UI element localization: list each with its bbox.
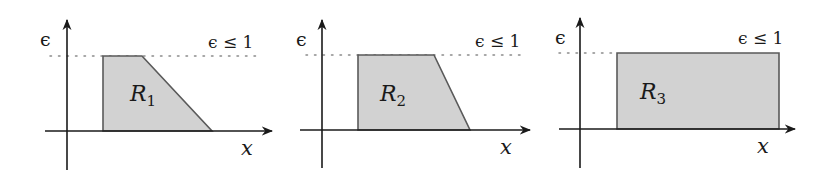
region-r1-shape bbox=[103, 56, 212, 131]
region-diagram: ϵ ϵ ≤ 1 x R1 ϵ ϵ ≤ 1 x R2 ϵ ϵ ≤ 1 x R3 bbox=[0, 0, 830, 174]
region-letter: R bbox=[129, 81, 147, 106]
constraint-label: ϵ ≤ 1 bbox=[738, 28, 783, 48]
constraint-label: ϵ ≤ 1 bbox=[475, 31, 520, 51]
region-subscript: 3 bbox=[657, 90, 667, 108]
region-subscript: 1 bbox=[147, 92, 157, 110]
epsilon-axis-label: ϵ bbox=[40, 28, 51, 50]
x-axis-label: x bbox=[500, 135, 512, 159]
region-subscript: 2 bbox=[397, 92, 407, 110]
constraint-label: ϵ ≤ 1 bbox=[208, 32, 253, 52]
epsilon-axis-label: ϵ bbox=[296, 28, 307, 50]
x-axis-label: x bbox=[757, 134, 769, 158]
x-axis-label: x bbox=[241, 136, 253, 160]
panel-2: ϵ ϵ ≤ 1 x R2 bbox=[296, 20, 530, 168]
epsilon-axis-label: ϵ bbox=[555, 26, 566, 48]
panel-1: ϵ ϵ ≤ 1 x R1 bbox=[40, 20, 272, 170]
region-r2-shape bbox=[358, 55, 470, 130]
region-letter: R bbox=[379, 81, 397, 106]
panel-3: ϵ ϵ ≤ 1 x R3 bbox=[555, 18, 795, 168]
region-letter: R bbox=[639, 79, 657, 104]
